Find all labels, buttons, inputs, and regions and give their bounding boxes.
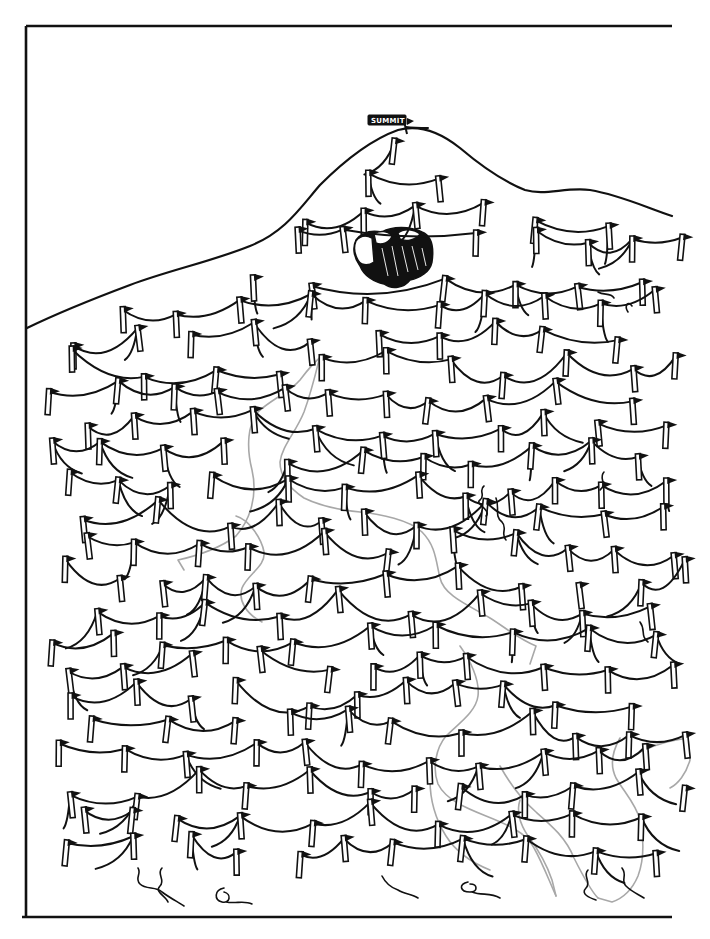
- maze-illustration: SUMMIT: [0, 0, 710, 939]
- summit-sign-label: SUMMIT: [371, 117, 405, 125]
